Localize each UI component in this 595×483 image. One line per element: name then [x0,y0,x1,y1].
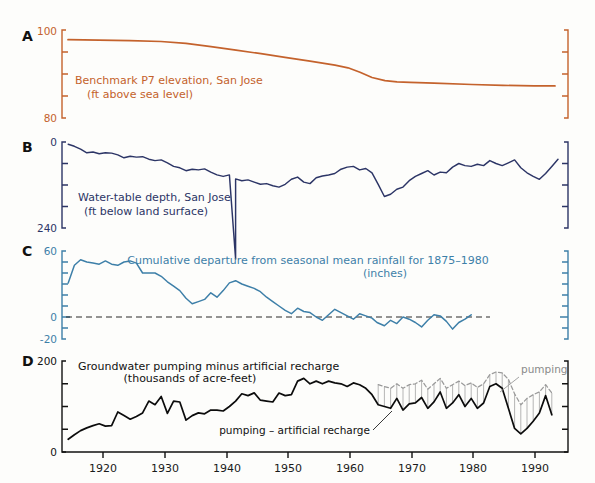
panel-b-ytick-top: 0 [50,136,57,148]
panel-c-ytick-zero: 0 [50,311,57,323]
panel-c-ytick-top: 60 [44,245,57,257]
xtick-label-1940: 1940 [213,462,241,475]
panel-d-left-ticks [62,384,68,430]
panel-c-series-line [68,260,471,329]
panel-b-left-ticks [62,164,68,207]
panel-b: B 0 240 Water-table depth, San Jose (ft … [22,136,568,259]
panel-c-letter: C [22,243,32,259]
panel-c: C 60 0 -20 Cumulative departure from sea… [22,243,568,345]
panel-d-label-line2: (thousands of acre-feet) [124,372,257,385]
panel-a: A 100 80 Benchmark P7 elevation, San Jos… [22,25,568,124]
panel-c-right-ticks [560,262,568,328]
xtick-label-1990: 1990 [521,462,549,475]
panel-d-pumping-leader [500,377,519,392]
x-axis-tick-labels: 1920 1930 1940 1950 1960 1970 1980 1990 [89,462,549,475]
xtick-label-1980: 1980 [459,462,487,475]
panel-c-ytick-bottom: -20 [40,333,57,345]
panel-d-ytick-top: 200 [37,355,57,367]
panel-b-label-line1: Water-table depth, San Jose [78,191,231,204]
panel-d-letter: D [22,353,34,369]
pumping-hatch-region [378,372,552,434]
panel-d-net-annotation: pumping – artificial recharge [219,424,370,436]
xtick-label-1930: 1930 [151,462,179,475]
panel-b-ytick-bottom: 240 [37,222,57,234]
panel-c-left-ticks [62,262,70,328]
panel-b-letter: B [22,139,33,155]
xtick-label-1970: 1970 [398,462,426,475]
panel-d-pumping-annotation: pumping [521,363,567,375]
panel-a-ytick-top: 100 [37,25,57,37]
panel-c-label-line2: (inches) [363,267,407,280]
figure-container: A 100 80 Benchmark P7 elevation, San Jos… [0,0,595,483]
xtick-label-1960: 1960 [336,462,364,475]
panel-d-x-ticks [103,452,535,458]
panel-b-label-line2: (ft below land surface) [84,205,208,218]
panel-a-right-ticks [562,52,568,96]
panel-a-ytick-bottom: 80 [44,112,57,124]
panel-a-letter: A [22,28,33,44]
xtick-label-1950: 1950 [274,462,302,475]
panel-d: D 200 0 [22,353,568,458]
panel-b-right-ticks [562,164,568,207]
xtick-label-1920: 1920 [89,462,117,475]
panel-c-label-line1: Cumulative departure from seasonal mean … [127,254,488,267]
panel-d-right-ticks [562,384,568,430]
panel-a-label-line1: Benchmark P7 elevation, San Jose [75,74,263,87]
panel-a-left-ticks [62,52,68,96]
panel-d-ytick-bottom: 0 [50,446,57,458]
multi-panel-time-series-figure: A 100 80 Benchmark P7 elevation, San Jos… [0,0,595,483]
panel-d-net-leader [373,411,392,430]
panel-a-label-line2: (ft above sea level) [87,88,193,101]
